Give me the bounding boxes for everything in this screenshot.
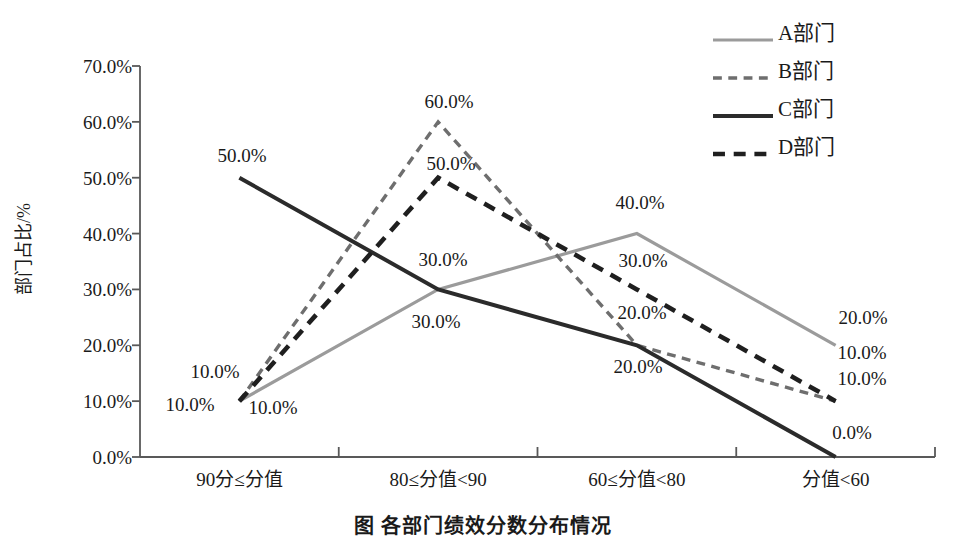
- data-value-label: 40.0%: [615, 193, 664, 212]
- figure-caption: 图 各部门绩效分数分布情况: [0, 515, 965, 537]
- legend-item-C部门[interactable]: C部门: [712, 90, 962, 128]
- data-value-label: 60.0%: [424, 92, 473, 111]
- data-value-label: 20.0%: [617, 303, 666, 322]
- data-value-label: 10.0%: [837, 369, 886, 388]
- data-value-label: 10.0%: [837, 343, 886, 362]
- series-line-D部门: [239, 178, 835, 401]
- legend-item-A部门[interactable]: A部门: [712, 14, 962, 52]
- legend-label: D部门: [778, 137, 835, 158]
- legend-label: B部门: [778, 61, 834, 82]
- legend-item-B部门[interactable]: B部门: [712, 52, 962, 90]
- data-value-label: 10.0%: [248, 398, 297, 417]
- x-axis-tick-label: 80≤分值<90: [390, 469, 487, 490]
- data-value-label: 10.0%: [165, 395, 214, 414]
- data-value-label: 30.0%: [418, 250, 467, 269]
- legend: A部门B部门C部门D部门: [712, 14, 962, 166]
- data-value-label: 20.0%: [838, 308, 887, 327]
- x-axis-tick-label: 90分≤分值: [196, 469, 282, 490]
- data-value-label: 20.0%: [613, 357, 662, 376]
- series-line-C部门: [239, 178, 835, 457]
- x-axis-tick-label: 分值<60: [802, 469, 870, 490]
- legend-label: C部门: [778, 99, 834, 120]
- data-value-label: 50.0%: [426, 154, 475, 173]
- data-value-label: 30.0%: [618, 251, 667, 270]
- x-axis-tick-label: 60≤分值<80: [588, 469, 685, 490]
- data-value-label: 30.0%: [411, 312, 460, 331]
- data-value-label: 10.0%: [190, 362, 239, 381]
- legend-item-D部门[interactable]: D部门: [712, 128, 962, 166]
- data-value-label: 50.0%: [217, 146, 266, 165]
- data-value-label: 0.0%: [832, 423, 872, 442]
- legend-label: A部门: [778, 23, 835, 44]
